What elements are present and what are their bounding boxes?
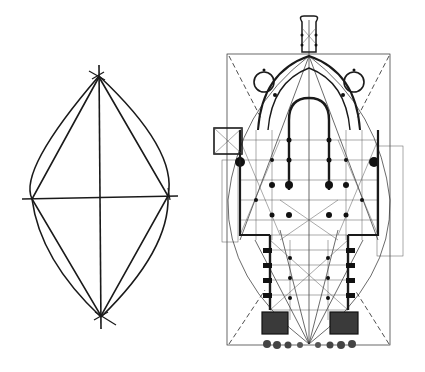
diagonal-tr — [356, 56, 389, 120]
diagonal-br — [355, 290, 389, 344]
diagram-canvas — [0, 0, 425, 372]
cathedral-plan — [214, 16, 403, 349]
transept-wall-right — [348, 130, 378, 235]
diagonal-tl — [229, 56, 262, 120]
transept-wall-left — [240, 130, 270, 235]
chapel-left — [254, 72, 274, 92]
diagonal-bl — [229, 290, 265, 344]
left-arc — [30, 76, 101, 317]
chapel-right — [344, 72, 364, 92]
vesica-construction — [22, 65, 178, 329]
tower-right — [330, 312, 358, 334]
tower-left — [262, 312, 288, 334]
